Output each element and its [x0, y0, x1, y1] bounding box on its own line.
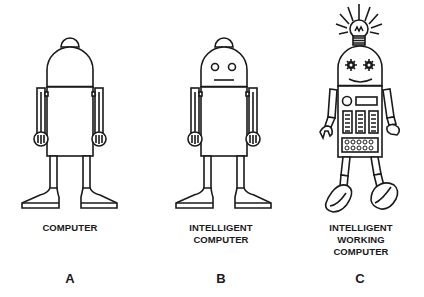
robot-c-head	[338, 46, 382, 86]
robot-a-left-foot	[22, 188, 59, 208]
robot-c-left-leg	[340, 157, 350, 187]
robot-a-head-knob	[61, 38, 79, 47]
robot-b-body	[201, 87, 247, 156]
robot-c	[320, 4, 399, 212]
robot-c-left-arm	[320, 89, 337, 138]
robot-c-dial	[343, 97, 352, 106]
robot-a-left-leg	[50, 156, 57, 189]
robot-b-right-foot	[235, 188, 271, 208]
robot-b-left-leg	[204, 156, 211, 189]
caption-c: INTELLIGENT WORKING COMPUTER	[321, 222, 401, 258]
caption-b: INTELLIGENT COMPUTER	[181, 222, 261, 246]
robot-b-head-knob	[215, 38, 233, 47]
caption-a: COMPUTER	[30, 222, 110, 234]
figure-letter-a: A	[55, 271, 85, 286]
robot-c-left-claw	[320, 126, 332, 138]
robot-b-right-leg	[237, 156, 244, 189]
figure-letter-b: B	[206, 271, 236, 286]
robot-a-right-leg	[83, 156, 90, 189]
robot-c-right-leg	[371, 157, 384, 187]
robot-b	[176, 38, 271, 208]
caption-b-line-2: COMPUTER	[181, 234, 261, 246]
robot-c-left-foot	[326, 185, 352, 212]
robot-b-head	[201, 47, 247, 87]
robot-a	[22, 38, 117, 208]
figure-letter-c: C	[345, 271, 375, 286]
caption-c-line-3: COMPUTER	[321, 246, 401, 258]
robot-c-right-arm	[383, 89, 399, 135]
robot-a-right-foot	[81, 188, 117, 208]
robot-b-left-eye	[212, 64, 219, 71]
robot-c-keypad-columns	[343, 111, 378, 133]
robot-a-head	[47, 47, 93, 87]
caption-c-line-2: WORKING	[321, 234, 401, 246]
robot-a-body	[47, 87, 93, 156]
caption-c-line-1: INTELLIGENT	[321, 222, 401, 234]
caption-b-line-1: INTELLIGENT	[181, 222, 261, 234]
robot-c-right-hand	[387, 125, 399, 136]
robot-c-display	[356, 97, 377, 105]
robot-b-left-foot	[176, 188, 213, 208]
caption-a-line-1: COMPUTER	[30, 222, 110, 234]
robot-b-right-eye	[229, 64, 236, 71]
